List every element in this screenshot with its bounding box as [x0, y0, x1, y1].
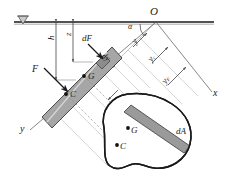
point-center-pressure-plate	[64, 92, 68, 96]
point-center-pressure-shape	[115, 143, 119, 147]
point-centroid-shape	[126, 126, 130, 130]
label-axis-x: x	[213, 88, 217, 98]
label-centroid-plate: G	[88, 72, 95, 81]
label-force-resultant: F	[32, 64, 38, 74]
point-centroid-plate	[82, 74, 86, 78]
free-surface-line	[14, 22, 214, 24]
label-force-element: dF	[82, 34, 92, 43]
label-center-pressure-plate: C	[70, 90, 76, 99]
label-angle-alpha: α	[128, 23, 132, 31]
diagram-canvas	[0, 0, 231, 187]
label-centroid-shape: G	[131, 126, 138, 135]
label-depth-centroid: h	[47, 36, 56, 41]
label-axis-y: y	[20, 124, 24, 134]
hydrostatic-force-diagram: O α dF F h z dy y yc yF G C G C dA x y	[0, 0, 231, 187]
label-element-area: dA	[176, 127, 186, 136]
label-depth-element: z	[64, 32, 73, 36]
label-center-pressure-shape: C	[120, 142, 126, 151]
label-origin: O	[150, 6, 158, 17]
